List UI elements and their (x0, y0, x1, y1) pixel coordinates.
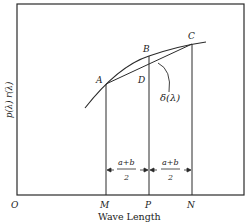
baseline-label-p: P (144, 200, 152, 210)
point-label-d: D (137, 75, 145, 85)
origin-label: O (11, 200, 19, 210)
delta-label: δ(λ) (160, 92, 180, 103)
interval-1-denominator: 2 (123, 173, 129, 182)
y-axis-label: p(λ) r(λ) (4, 82, 14, 118)
point-label-c: C (188, 31, 195, 41)
diagram-canvas: A B C D δ(λ) a+b 2 a+b 2 O M P N Wave Le… (0, 0, 247, 224)
baseline-label-n: N (186, 200, 196, 210)
x-axis-label: Wave Length (98, 211, 161, 222)
point-label-b: B (142, 44, 150, 54)
baseline-label-m: M (99, 200, 110, 210)
interval-2-numerator: a+b (162, 158, 179, 167)
interval-2-denominator: 2 (167, 173, 173, 182)
point-label-a: A (95, 75, 103, 85)
delta-leader (158, 63, 170, 92)
interval-1-numerator: a+b (118, 158, 135, 167)
